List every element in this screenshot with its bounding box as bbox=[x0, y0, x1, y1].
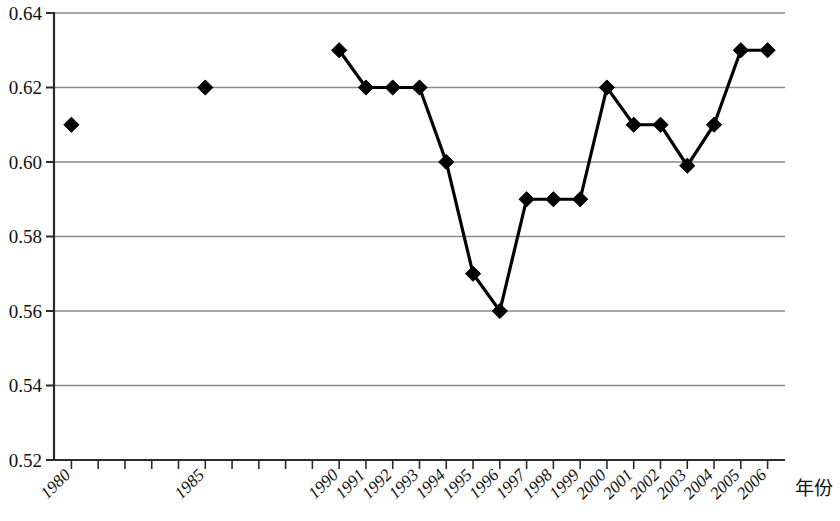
y-tick-label-0.56: 0.56 bbox=[9, 301, 42, 322]
y-tick-label-0.54: 0.54 bbox=[9, 375, 43, 396]
chart-background bbox=[0, 0, 840, 521]
y-tick-label-0.52: 0.52 bbox=[9, 450, 42, 471]
chart-canvas: 0.520.540.560.580.600.620.64 19801985199… bbox=[0, 0, 840, 521]
y-tick-label-0.6: 0.60 bbox=[9, 152, 42, 173]
line-chart: 0.520.540.560.580.600.620.64 19801985199… bbox=[0, 0, 840, 521]
y-tick-label-0.58: 0.58 bbox=[9, 226, 42, 247]
y-tick-label-0.62: 0.62 bbox=[9, 77, 42, 98]
x-axis-title: 年份 bbox=[795, 478, 833, 499]
y-tick-label-0.64: 0.64 bbox=[9, 3, 43, 24]
